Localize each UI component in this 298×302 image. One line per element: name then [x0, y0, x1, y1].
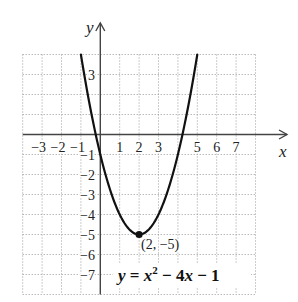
- equation-lhs: y: [116, 266, 126, 285]
- x-tick-label: 5: [194, 140, 201, 155]
- parabola-plot: −3−2−11235673−1−2−3−4−5−6−7 y x (2, −5) …: [0, 0, 298, 302]
- y-tick-label: −6: [80, 248, 95, 263]
- y-tick-label: −2: [80, 168, 95, 183]
- x-tick-label: −2: [51, 140, 66, 155]
- x-tick-label: 6: [213, 140, 220, 155]
- equation-constant: − 1: [193, 266, 220, 285]
- x-tick-label: 2: [136, 140, 143, 155]
- equation-var-x: x: [143, 266, 153, 285]
- x-tick-label: 7: [233, 140, 240, 155]
- y-tick-label: −5: [80, 228, 95, 243]
- axes: [23, 23, 287, 295]
- equation-label: y = x2 − 4x − 1: [116, 264, 220, 285]
- dotted-grid: [23, 55, 256, 295]
- y-tick-label: −4: [80, 208, 95, 223]
- y-tick-label: −3: [80, 188, 95, 203]
- y-tick-label: 3: [88, 68, 95, 83]
- parabola-figure: −3−2−11235673−1−2−3−4−5−6−7 y x (2, −5) …: [0, 0, 298, 302]
- vertex-label: (2, −5): [141, 237, 180, 253]
- x-tick-label: −3: [31, 140, 46, 155]
- equation-var-x-2: x: [183, 266, 193, 285]
- x-tick-label: 3: [155, 140, 162, 155]
- y-tick-label: −7: [80, 268, 95, 283]
- y-tick-label: −1: [80, 148, 95, 163]
- x-axis-label: x: [278, 142, 287, 161]
- y-axis-label: y: [84, 18, 94, 37]
- x-tick-label: 1: [116, 140, 123, 155]
- equation-equals: =: [126, 266, 144, 285]
- equation-term: − 4: [158, 266, 185, 285]
